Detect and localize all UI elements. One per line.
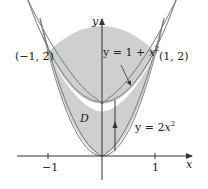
- point-label-neg1-2: (−1, 2): [15, 50, 54, 63]
- y-axis-label: y: [91, 15, 99, 28]
- point-label-1-2: (1, 2): [159, 50, 189, 63]
- x-tick-label-neg1: −1: [42, 161, 58, 174]
- region-diagram: (−1, 2) (1, 2) y = 1 + x2 y = 2x2 D y x …: [0, 0, 208, 189]
- lower-curve-label: y = 2x2: [134, 120, 175, 134]
- region-label-d: D: [79, 112, 89, 125]
- x-axis-label: x: [186, 158, 193, 171]
- x-tick-label-pos1: 1: [152, 161, 159, 174]
- upper-curve-label: y = 1 + x2: [102, 45, 159, 59]
